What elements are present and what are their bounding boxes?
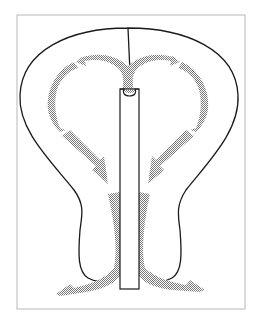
airflow-diagram (0, 0, 256, 323)
flow-left-diagonal (62, 130, 108, 184)
flow-left-side (48, 62, 78, 132)
flow-bottom-right-exit (139, 192, 205, 292)
flow-right-side (178, 62, 208, 132)
flow-right-diagonal (148, 130, 194, 184)
tube (120, 89, 139, 289)
flow-bottom-left-exit (56, 192, 120, 296)
flow-up-from-tube (80, 55, 176, 92)
